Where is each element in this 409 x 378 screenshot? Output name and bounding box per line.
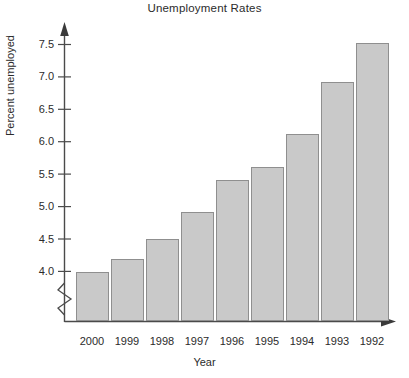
ytick-label-7-5: 7.5: [20, 39, 54, 50]
ytick-label-4-0: 4.0: [20, 266, 54, 277]
xtick-label-1999: 1999: [107, 336, 147, 347]
xtick-label-1995: 1995: [247, 336, 287, 347]
xtick-label-1998: 1998: [142, 336, 182, 347]
unemployment-rates-bar-chart: Unemployment Rates Percent unemployed Ye…: [0, 0, 409, 378]
ytick-label-6-5: 6.5: [20, 104, 54, 115]
bar-1994: [286, 134, 319, 321]
ytick-label-7-0: 7.0: [20, 71, 54, 82]
xtick-label-1993: 1993: [317, 336, 357, 347]
bar-1996: [216, 180, 249, 321]
bar-1992: [356, 43, 389, 321]
xtick-label-1996: 1996: [212, 336, 252, 347]
bar-1997: [181, 212, 214, 321]
ytick-label-4-5: 4.5: [20, 234, 54, 245]
y-axis-arrow: [60, 22, 69, 36]
bar-2000: [76, 272, 109, 321]
xtick-label-1992: 1992: [352, 336, 392, 347]
xtick-label-1997: 1997: [177, 336, 217, 347]
ytick-label-5-0: 5.0: [20, 201, 54, 212]
bar-1993: [321, 82, 354, 321]
xtick-label-2000: 2000: [72, 336, 112, 347]
xtick-label-1994: 1994: [282, 336, 322, 347]
ytick-label-6-0: 6.0: [20, 136, 54, 147]
bar-1995: [251, 167, 284, 321]
bar-1999: [111, 259, 144, 321]
bar-1998: [146, 239, 179, 321]
ytick-label-5-5: 5.5: [20, 169, 54, 180]
